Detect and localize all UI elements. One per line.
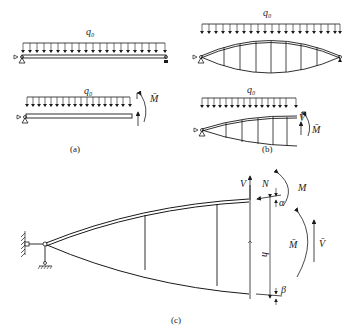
ground-support-icon	[38, 262, 52, 270]
m-bar-label: M̄	[288, 239, 298, 250]
panel-b-top: q₀	[193, 7, 342, 73]
half-beam	[26, 114, 132, 118]
moment-arrow-icon	[141, 95, 146, 122]
half-lenticular-truss	[202, 116, 297, 146]
v-label: V	[240, 178, 248, 189]
pin-support-icon	[193, 55, 204, 63]
pin-support-icon	[14, 55, 25, 63]
wall-support-icon	[21, 231, 25, 257]
roller-support-icon	[338, 56, 342, 63]
moment-label: M̄	[311, 124, 321, 135]
shear-label: V̄	[299, 112, 307, 123]
n-force-arrow	[257, 195, 281, 199]
moment-arrow-icon	[306, 116, 310, 136]
load-label-q0: q₀	[86, 26, 95, 37]
m-label: M	[297, 182, 307, 193]
pin-support-icon	[194, 128, 205, 136]
n-label: N	[261, 178, 270, 189]
lenticular-truss	[201, 41, 340, 74]
caption-b: (b)	[262, 144, 273, 154]
panel-a-top: q₀	[14, 26, 168, 63]
m-bar-moment-arrow	[297, 212, 308, 277]
panel-a-bottom: q₀	[17, 85, 159, 126]
pin-support-icon	[17, 115, 28, 123]
beta-label: β	[280, 284, 286, 295]
alpha-label: α	[279, 197, 285, 208]
caption-c: (c)	[171, 315, 181, 325]
tapered-truss	[46, 199, 249, 294]
load-label-q0: q₀	[247, 84, 256, 95]
moment-label: M̄	[149, 93, 159, 104]
v-bar-label: V̄	[319, 238, 327, 249]
h-label: h	[260, 252, 271, 257]
load-label-q0: q₀	[263, 7, 272, 18]
load-label-q0: q₀	[84, 85, 93, 96]
structural-diagram: q₀	[0, 0, 350, 336]
caption-a: (a)	[70, 144, 80, 154]
shear-arrow-icon	[137, 93, 141, 126]
beam	[22, 55, 166, 58]
panel-b-bottom: q₀	[194, 84, 321, 146]
panel-c: V N M α h β M̄ V̄	[21, 173, 327, 305]
